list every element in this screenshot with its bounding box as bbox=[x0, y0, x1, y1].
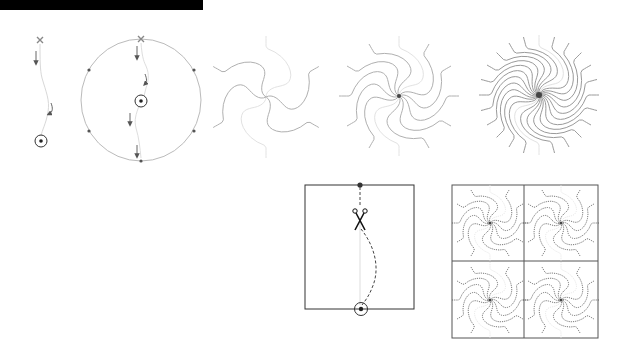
spiral-arm bbox=[490, 281, 523, 308]
arrow-curved-icon bbox=[49, 103, 52, 114]
spiral-arm bbox=[523, 285, 561, 301]
perimeter-dot-bottom-right bbox=[192, 129, 195, 132]
spiral-arm bbox=[471, 190, 498, 223]
spiral-arm bbox=[546, 300, 562, 338]
panel-spiral-12-arms bbox=[339, 36, 459, 156]
spiral-arm bbox=[457, 292, 490, 319]
perimeter-dot-bottom bbox=[139, 159, 142, 162]
spiral-arm bbox=[561, 204, 594, 231]
center-dot-icon bbox=[559, 221, 562, 224]
spiral-arm bbox=[561, 300, 594, 322]
spiral-arm bbox=[471, 267, 498, 300]
perimeter-dot-top-left bbox=[87, 68, 90, 71]
spiral-arm bbox=[561, 281, 594, 308]
spiral-arm bbox=[561, 185, 577, 223]
spiral-arm bbox=[490, 300, 523, 322]
panel-cut-square bbox=[305, 182, 414, 315]
arrow-curved-icon bbox=[145, 74, 147, 84]
spiral-arm bbox=[542, 190, 569, 223]
spiral-arm bbox=[475, 300, 491, 338]
spiral-arm bbox=[241, 97, 266, 158]
spiral-arm bbox=[561, 223, 594, 245]
spiral-arm bbox=[523, 208, 561, 224]
spiral-arm bbox=[490, 204, 523, 231]
spiral-arm bbox=[490, 300, 528, 316]
panel-circle-path bbox=[81, 36, 201, 163]
x-mark-icon bbox=[37, 37, 43, 43]
spiral-arm bbox=[468, 223, 490, 256]
spiral-arm bbox=[375, 96, 399, 156]
spiral-arm bbox=[482, 223, 509, 256]
spiral-arm bbox=[457, 278, 490, 300]
spiral-arm bbox=[553, 223, 580, 256]
spiral-arm bbox=[528, 292, 561, 319]
spiral-arm bbox=[266, 36, 291, 97]
spiral-arm bbox=[452, 285, 490, 301]
spiral-arm bbox=[546, 223, 562, 261]
spiral-arm bbox=[213, 62, 266, 97]
spiral-arm bbox=[266, 97, 319, 132]
center-dot-icon bbox=[488, 221, 491, 224]
dot-icon bbox=[357, 182, 362, 187]
center-dot-icon bbox=[559, 298, 562, 301]
spiral-arm bbox=[528, 201, 561, 223]
spiral-arm bbox=[475, 223, 491, 261]
target-icon bbox=[35, 135, 47, 147]
spiral-arm bbox=[561, 190, 583, 223]
spiral-arm bbox=[482, 300, 509, 333]
panel-tiled-square bbox=[452, 185, 599, 338]
spiral-arm bbox=[399, 36, 423, 96]
spiral-arm bbox=[490, 185, 506, 223]
spiral-arm bbox=[539, 223, 561, 256]
center-dot-icon bbox=[488, 298, 491, 301]
spiral-arm bbox=[490, 223, 528, 239]
target-icon bbox=[135, 95, 147, 107]
perimeter-dot-bottom-left bbox=[87, 129, 90, 132]
spiral-arm bbox=[490, 190, 512, 223]
spiral-arm bbox=[490, 223, 523, 245]
panel-spiral-6-arms bbox=[213, 36, 319, 158]
diagram-canvas bbox=[0, 0, 624, 348]
spiral-arm bbox=[457, 215, 490, 242]
spiral-arm bbox=[490, 267, 512, 300]
spiral-arm bbox=[553, 300, 580, 333]
spiral-arm bbox=[528, 278, 561, 300]
spiral-arm bbox=[457, 201, 490, 223]
panel-single-path bbox=[35, 37, 52, 147]
center-dot-icon bbox=[536, 92, 542, 98]
perimeter-dot-top-right bbox=[192, 68, 195, 71]
spiral-arm bbox=[452, 208, 490, 224]
spiral-arm bbox=[339, 72, 399, 96]
center-dot-icon bbox=[397, 94, 401, 98]
spiral-arm bbox=[561, 267, 583, 300]
spiral-arm bbox=[561, 300, 599, 316]
panel-spiral-24-arms bbox=[479, 35, 599, 155]
spiral-arm bbox=[539, 300, 561, 333]
spiral-arm bbox=[399, 96, 459, 120]
spiral-arm bbox=[561, 262, 577, 300]
spiral-arm bbox=[490, 262, 506, 300]
spiral-arm bbox=[528, 215, 561, 242]
spiral-arm bbox=[561, 223, 599, 239]
spiral-arm bbox=[542, 267, 569, 300]
spiral-arm bbox=[468, 300, 490, 333]
